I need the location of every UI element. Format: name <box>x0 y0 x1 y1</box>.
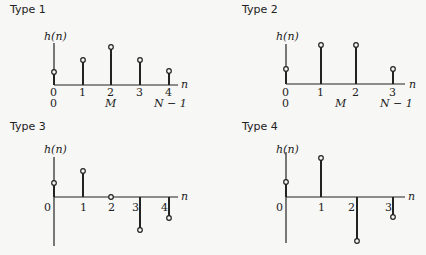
xlabel-type-2: n <box>409 78 416 91</box>
xlabel-type-1: n <box>181 78 188 91</box>
xlabel-type-4: n <box>408 190 415 203</box>
ylabel-type-2: h(n) <box>276 30 299 43</box>
tick-label: 2 <box>352 86 359 99</box>
plot-type-2 <box>284 43 405 84</box>
tick-label: 1 <box>80 201 87 214</box>
tick-label: 0 <box>44 201 51 214</box>
sub-label: 0 <box>50 97 57 110</box>
stem-plots: h(n) n 0 1 2 3 4 0 M N − 1 h(n) n 0 1 2 … <box>0 0 426 255</box>
tick-label: 3 <box>136 86 143 99</box>
sub-label-n-minus-1: N − 1 <box>379 97 413 110</box>
ylabel-type-4: h(n) <box>276 143 299 156</box>
xlabel-type-3: n <box>181 190 188 203</box>
tick-label: 1 <box>318 201 325 214</box>
sub-label: 0 <box>282 97 289 110</box>
sub-label-m: M <box>334 97 347 110</box>
tick-label: 1 <box>317 86 324 99</box>
tick-label: 3 <box>385 201 392 214</box>
tick-label: 2 <box>108 201 115 214</box>
ylabel-type-3: h(n) <box>44 143 67 156</box>
tick-label: 0 <box>276 201 283 214</box>
plot-type-4 <box>284 152 405 243</box>
sub-label-m: M <box>104 97 117 110</box>
tick-label: 4 <box>161 201 168 214</box>
tick-label: 1 <box>79 86 86 99</box>
tick-label: 3 <box>132 201 139 214</box>
ylabel-type-1: h(n) <box>44 30 67 43</box>
tick-label: 2 <box>348 201 355 214</box>
sub-label-n-minus-1: N − 1 <box>153 97 187 110</box>
plot-type-1 <box>52 43 178 85</box>
